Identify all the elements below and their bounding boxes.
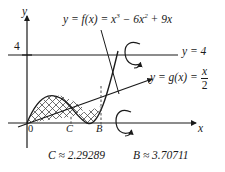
x-tick-label-C: C — [66, 124, 73, 135]
equation-label-f: y = f(x) = x3 − 6x2 + 9x — [63, 14, 172, 26]
equation-f-prefix: y = f(x) = x — [63, 13, 116, 25]
annotation-b-value: B ≈ 3.70711 — [133, 150, 189, 162]
y-axis-label: y — [22, 6, 27, 18]
origin-label: 0 — [28, 124, 33, 135]
equation-f-suffix: + 9x — [148, 13, 172, 25]
equation-label-g: y = g(x) = x2 — [150, 66, 208, 91]
rotation-marker-xaxis — [116, 110, 131, 133]
fraction-x-over-2: x2 — [201, 65, 209, 90]
equation-f-middle: − 6x — [120, 13, 144, 25]
x-tick-label-B: B — [96, 124, 102, 135]
x-axis-label: x — [198, 123, 203, 135]
fraction-numerator: x — [201, 65, 209, 77]
equation-label-y4: y = 4 — [182, 46, 206, 58]
y-tick-label-4: 4 — [14, 41, 20, 53]
shaded-region-upper — [27, 95, 85, 123]
figure-canvas: y = f(x) = x3 − 6x2 + 9x y = 4 y = g(x) … — [0, 0, 225, 172]
annotation-c-value: C ≈ 2.29289 — [48, 150, 105, 162]
rotation-marker-y4 — [125, 42, 140, 64]
equation-g-prefix: y = g(x) = — [150, 71, 201, 83]
fraction-denominator: 2 — [201, 78, 209, 91]
